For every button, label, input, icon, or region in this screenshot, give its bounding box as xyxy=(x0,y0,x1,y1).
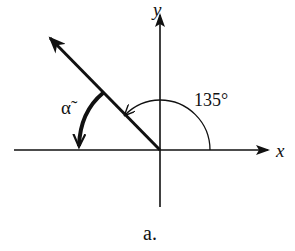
terminal-ray xyxy=(50,38,160,150)
angle-diagram: y x 135° α̃ a. xyxy=(0,0,295,251)
figure-caption: a. xyxy=(143,222,157,244)
reference-angle-label: α̃ xyxy=(61,97,78,118)
reference-angle-arc xyxy=(79,93,103,146)
y-axis-label: y xyxy=(151,0,162,20)
angle-135-label: 135° xyxy=(194,90,228,110)
x-axis-label: x xyxy=(275,140,285,161)
